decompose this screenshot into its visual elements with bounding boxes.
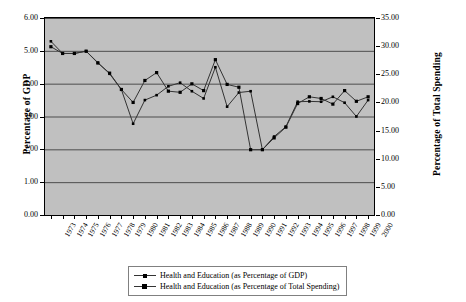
data-point-marker — [144, 99, 147, 102]
data-point-marker — [226, 83, 229, 86]
data-point-marker — [226, 105, 229, 108]
legend-marker-total-spending-icon — [134, 282, 156, 291]
data-point-marker — [96, 61, 99, 64]
x-tick-mark — [204, 216, 205, 219]
x-tick-mark — [145, 216, 146, 219]
data-point-marker — [167, 90, 170, 93]
x-tick-mark — [345, 216, 346, 219]
x-tick-mark — [51, 216, 52, 219]
data-point-marker — [284, 126, 287, 129]
data-point-marker — [273, 136, 276, 139]
y-axis-label-right: Percentage of Total Spending — [432, 39, 442, 189]
x-tick-mark — [133, 216, 134, 219]
x-tick-label: 1981 — [156, 221, 171, 238]
data-point-marker — [355, 100, 358, 103]
data-point-marker — [73, 52, 76, 55]
y-tick-mark-right — [376, 18, 380, 19]
data-point-marker — [202, 89, 205, 92]
x-tick-label: 1985 — [203, 221, 218, 238]
data-point-marker — [308, 100, 311, 103]
data-point-marker — [61, 52, 64, 55]
data-point-marker — [85, 50, 88, 53]
data-point-marker — [50, 40, 53, 43]
data-point-marker — [179, 81, 182, 84]
y-tick-label-left: 0.00 — [4, 210, 38, 219]
x-tick-mark — [121, 216, 122, 219]
y-tick-mark-right — [376, 159, 380, 160]
data-point-marker — [261, 148, 264, 151]
data-point-marker — [320, 100, 323, 103]
y-tick-label-left: 3.00 — [4, 112, 38, 121]
y-tick-label-left: 4.00 — [4, 79, 38, 88]
data-point-marker — [249, 90, 252, 93]
x-tick-mark — [309, 216, 310, 219]
y-tick-mark-right — [376, 102, 380, 103]
legend-item-total-spending: Health and Education (as Percentage of T… — [134, 281, 339, 292]
data-point-marker — [191, 90, 194, 93]
x-tick-mark — [215, 216, 216, 219]
data-point-marker — [367, 99, 370, 102]
x-tick-mark — [251, 216, 252, 219]
x-tick-mark — [262, 216, 263, 219]
legend-label-total-spending: Health and Education (as Percentage of T… — [160, 282, 339, 291]
y-tick-label-right: 10.00 — [381, 154, 415, 163]
x-tick-label: 1997 — [344, 221, 359, 238]
x-tick-mark — [63, 216, 64, 219]
data-point-marker — [320, 97, 323, 100]
y-tick-label-left: 5.00 — [4, 46, 38, 55]
chart-container: Percentage of GDP Percentage of Total Sp… — [0, 0, 466, 302]
y-tick-mark-right — [376, 131, 380, 132]
y-tick-mark-right — [376, 187, 380, 188]
data-point-marker — [202, 97, 205, 100]
x-tick-mark — [168, 216, 169, 219]
x-tick-mark — [321, 216, 322, 219]
y-tick-mark-right — [376, 215, 380, 216]
x-tick-label: 1973 — [62, 221, 77, 238]
data-point-marker — [155, 71, 158, 74]
y-tick-label-right: 5.00 — [381, 182, 415, 191]
data-point-marker — [132, 122, 135, 125]
y-tick-label-right: 30.00 — [381, 41, 415, 50]
x-tick-label: 1989 — [250, 221, 265, 238]
data-point-marker — [343, 101, 346, 104]
y-tick-label-right: 35.00 — [381, 13, 415, 22]
y-tick-label-right: 0.00 — [381, 210, 415, 219]
x-tick-mark — [157, 216, 158, 219]
x-tick-mark — [110, 216, 111, 219]
data-point-marker — [167, 85, 170, 88]
x-tick-mark — [180, 216, 181, 219]
data-point-marker — [179, 91, 182, 94]
y-tick-mark-right — [376, 46, 380, 47]
x-tick-mark — [74, 216, 75, 219]
x-tick-mark — [274, 216, 275, 219]
plot-svg — [45, 18, 374, 215]
y-tick-label-right: 15.00 — [381, 126, 415, 135]
data-point-marker — [355, 115, 358, 118]
data-point-marker — [214, 66, 217, 69]
data-point-marker — [332, 96, 335, 99]
legend-label-gdp: Health and Education (as Percentage of G… — [160, 271, 307, 280]
data-point-marker — [331, 103, 334, 106]
plot-area — [44, 17, 375, 216]
x-tick-label: 1993 — [297, 221, 312, 238]
legend-item-gdp: Health and Education (as Percentage of G… — [134, 270, 339, 281]
x-tick-mark — [298, 216, 299, 219]
x-tick-mark — [86, 216, 87, 219]
data-point-marker — [249, 148, 252, 151]
x-tick-mark — [368, 216, 369, 219]
x-tick-mark — [286, 216, 287, 219]
data-point-marker — [108, 72, 111, 75]
x-tick-mark — [239, 216, 240, 219]
legend-marker-gdp-icon — [134, 271, 156, 280]
data-point-marker — [155, 94, 158, 97]
data-point-marker — [49, 45, 52, 48]
y-tick-label-left: 2.00 — [4, 144, 38, 153]
y-tick-label-left: 6.00 — [4, 13, 38, 22]
data-point-marker — [237, 86, 240, 89]
y-tick-mark-right — [376, 74, 380, 75]
x-tick-mark — [98, 216, 99, 219]
data-point-marker — [308, 95, 311, 98]
series-line — [51, 41, 368, 149]
y-tick-label-right: 25.00 — [381, 69, 415, 78]
y-tick-label-left: 1.00 — [4, 177, 38, 186]
